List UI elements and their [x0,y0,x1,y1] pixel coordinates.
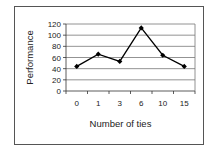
y-tick-label: 100 [48,31,62,40]
x-tick-label: 15 [180,99,189,108]
y-tick-label: 80 [52,42,61,51]
x-tick-label: 0 [75,99,80,108]
x-tick-label: 3 [118,99,123,108]
line-chart: 02040608010012001361015Number of tiesPer… [0,0,215,152]
y-tick-label: 60 [52,54,61,63]
x-axis-title: Number of ties [90,118,152,129]
y-tick-label: 0 [57,87,62,96]
y-tick-label: 40 [52,65,61,74]
y-axis-title: Performance [24,30,35,84]
x-tick-label: 6 [139,99,144,108]
x-tick-label: 10 [158,99,167,108]
y-tick-label: 120 [48,20,62,29]
y-tick-label: 20 [52,76,61,85]
data-point-marker [74,64,79,69]
x-tick-label: 1 [96,99,101,108]
data-point-marker [182,64,187,69]
data-point-marker [96,52,101,57]
data-line [77,28,185,67]
